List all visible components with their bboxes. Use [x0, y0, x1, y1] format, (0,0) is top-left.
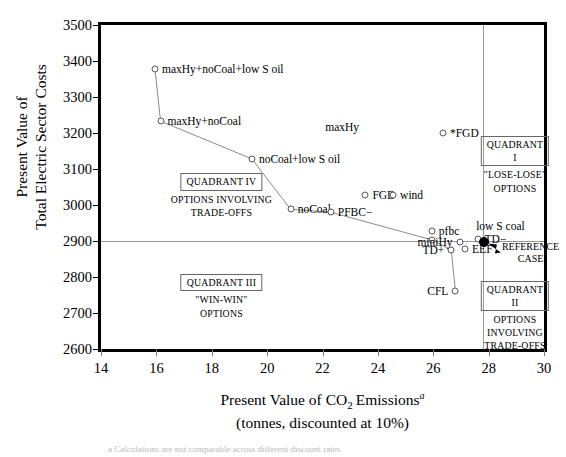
plot-area: 2600270028002900300031003200330034003500… [98, 22, 547, 352]
y-tick [93, 169, 101, 170]
x-axis-title-sub: (tonnes, discounted at 10%) [98, 413, 547, 433]
data-point-label: CFL [427, 285, 448, 297]
data-point-label: noCoal+low S oil [259, 153, 340, 165]
quadrant-callout: QUADRANT III"WIN-WIN" OPTIONS [181, 274, 262, 320]
y-tick-label: 3000 [63, 197, 92, 214]
data-point[interactable] [157, 118, 164, 125]
y-tick-label: 2800 [63, 269, 92, 286]
data-point[interactable] [248, 155, 255, 162]
y-tick-label: 3500 [63, 17, 92, 34]
quadrant-callout: QUADRANT IVOPTIONS INVOLVING TRADE-OFFS [171, 173, 272, 219]
x-tick-label: 26 [426, 360, 441, 377]
x-axis-title-main: Present Value of CO2 Emissionsa [98, 390, 547, 413]
y-tick [93, 313, 101, 314]
data-point-label: maxHy+noCoal [168, 115, 242, 127]
data-point-label: TD+ [422, 244, 444, 256]
quadrant-callout: QUADRANT I"LOSE-LOSE" OPTIONS [481, 136, 549, 195]
x-tick-label: 28 [481, 360, 496, 377]
quadrant-title: QUADRANT II [481, 281, 549, 311]
data-point-label: wind [400, 189, 423, 201]
data-point-label: noCoal [298, 203, 331, 215]
x-tick [212, 349, 213, 356]
x-tick [378, 349, 379, 356]
reference-case-label-line2: CASE [502, 253, 559, 265]
data-point[interactable] [456, 238, 463, 245]
y-tick [93, 133, 101, 134]
quadrant-body: OPTIONS INVOLVING TRADE-OFFS [171, 193, 272, 219]
x-tick [156, 349, 157, 356]
x-tick-label: 30 [537, 360, 552, 377]
x-tick [101, 349, 102, 356]
data-point[interactable] [151, 66, 158, 73]
data-point[interactable] [362, 191, 369, 198]
data-point[interactable] [452, 287, 459, 294]
y-tick-label: 2600 [63, 341, 92, 358]
reference-case-label-line1: REFERENCE [502, 241, 559, 253]
quadrant-title: QUADRANT I [481, 136, 549, 166]
plot-inner: 2600270028002900300031003200330034003500… [101, 25, 544, 349]
y-tick [93, 25, 101, 26]
data-point-label: maxHy+noCoal+low S oil [162, 63, 284, 75]
x-tick [323, 349, 324, 356]
y-tick-label: 3100 [63, 161, 92, 178]
x-tick-label: 24 [371, 360, 386, 377]
data-point[interactable] [479, 237, 489, 247]
y-tick-label: 2700 [63, 305, 92, 322]
data-point[interactable] [287, 206, 294, 213]
x-tick [433, 349, 434, 356]
data-point[interactable] [327, 209, 334, 216]
x-tick-label: 22 [315, 360, 330, 377]
data-point[interactable] [462, 246, 469, 253]
reference-case-callout: REFERENCECASE [502, 241, 559, 265]
y-tick [93, 277, 101, 278]
data-point-label: *FGD [450, 127, 479, 139]
x-tick-label: 20 [260, 360, 275, 377]
x-tick-label: 16 [149, 360, 164, 377]
y-tick-label: 3400 [63, 53, 92, 70]
y-tick-label: 3300 [63, 89, 92, 106]
data-point[interactable] [390, 191, 397, 198]
quadrant-body: OPTIONS INVOLVING TRADE-OFFS [481, 313, 549, 353]
annotation-label: maxHy [325, 121, 359, 133]
y-axis-title-line2: Total Electric Sector Costs [32, 0, 51, 307]
x-axis-title: Present Value of CO2 Emissionsa (tonnes,… [98, 390, 547, 433]
y-tick-label: 3200 [63, 125, 92, 142]
y-tick [93, 97, 101, 98]
y-tick [93, 205, 101, 206]
y-tick [93, 349, 101, 350]
data-point-label: PFBC− [338, 206, 373, 218]
x-tick-label: 14 [94, 360, 109, 377]
quadrant-title: QUADRANT IV [181, 173, 263, 190]
annotation-label: low S coal [476, 220, 525, 232]
quadrant-callout: QUADRANT IIOPTIONS INVOLVING TRADE-OFFS [481, 281, 549, 353]
y-tick-label: 2900 [63, 233, 92, 250]
data-point[interactable] [448, 247, 455, 254]
x-tick [267, 349, 268, 356]
y-axis-title-line1: Present Value of [13, 0, 32, 307]
data-point[interactable] [439, 130, 446, 137]
data-point[interactable] [428, 227, 435, 234]
quadrant-title: QUADRANT III [181, 274, 262, 291]
footnote: a Calculations are not comparable across… [108, 444, 538, 454]
quadrant-body: "WIN-WIN" OPTIONS [181, 293, 262, 319]
y-tick [93, 61, 101, 62]
quadrant-body: "LOSE-LOSE" OPTIONS [481, 168, 549, 194]
x-tick-label: 18 [205, 360, 220, 377]
y-axis-title: Present Value of Total Electric Sector C… [13, 0, 51, 307]
y-tick [93, 241, 101, 242]
